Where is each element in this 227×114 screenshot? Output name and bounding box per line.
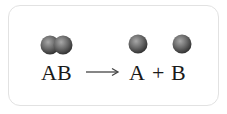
molecule-ab-icon (41, 36, 73, 55)
arrow-icon (86, 69, 118, 76)
product-b-label: B (171, 60, 186, 85)
reactant-label: AB (41, 60, 72, 85)
reaction-diagram: AB A + B (0, 0, 227, 114)
atom-b-icon (173, 35, 192, 54)
product-a-label: A (129, 60, 145, 85)
atom-a-icon (129, 35, 148, 54)
plus-sign: + (152, 60, 164, 85)
